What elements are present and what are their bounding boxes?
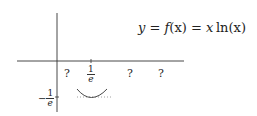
x-tick-label-one-over-e: 1 e (87, 65, 95, 84)
formula-equals-2: = (187, 20, 206, 35)
curve-arc (77, 89, 107, 98)
formula-x: x (206, 20, 213, 35)
formula-equals-1: = (145, 20, 164, 35)
formula-ln-arg: (x) (228, 20, 245, 35)
unknown-label-3: ? (158, 67, 164, 80)
function-formula: y = f(x) = x ln(x) (138, 20, 246, 35)
y-tick-sign: − (38, 93, 46, 104)
unknown-label-2: ? (127, 67, 133, 80)
formula-arg: (x) (169, 20, 186, 35)
formula-ln: ln (216, 20, 229, 35)
y-tick-denominator: e (48, 99, 53, 108)
x-tick-denominator: e (88, 75, 93, 84)
y-tick-label-minus-one-over-e: − 1 e (38, 89, 54, 108)
unknown-label-1: ? (64, 67, 70, 80)
